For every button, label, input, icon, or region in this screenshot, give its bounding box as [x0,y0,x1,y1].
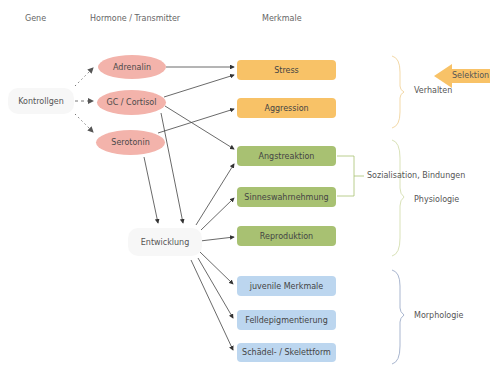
trait-reproduktion: Reproduktion [237,226,336,246]
node-cortisol: GC / Cortisol [97,90,166,115]
trait-stress: Stress [237,60,336,80]
node-adrenalin: Adrenalin [98,55,166,79]
node-entwicklung: Entwicklung [128,228,202,256]
selection-label: Selektion [452,71,489,80]
trait-angstreaktion-label: Angstreaktion [259,152,315,161]
trait-stress-label: Stress [274,66,299,75]
group-label-physiologie: Physiologie [414,195,459,204]
kontrollgen-label: Kontrollgen [18,97,63,106]
node-kontrollgen: Kontrollgen [8,88,74,114]
trait-schaedel-skelettform: Schädel- / Skelettform [237,343,336,362]
trait-aggression-label: Aggression [264,104,308,113]
trait-reproduktion-label: Reproduktion [260,232,313,241]
trait-felldepigmentierung: Felldepigmentierung [237,310,336,330]
group-label-morphologie: Morphologie [414,311,463,320]
trait-felldepig-label: Felldepigmentierung [245,316,327,325]
trait-juvenile-label: juvenile Merkmale [250,282,324,291]
trait-aggression: Aggression [237,98,336,118]
entwicklung-label: Entwicklung [141,238,190,247]
trait-sinneswahrnehmung: Sinneswahrnehmung [237,187,336,207]
adrenalin-label: Adrenalin [113,63,151,72]
group-label-sozialisation: Sozialisation, Bindungen [367,171,465,180]
trait-sinneswahrnehmung-label: Sinneswahrnehmung [244,193,328,202]
trait-schaedel-label: Schädel- / Skelettform [242,348,331,357]
trait-angstreaktion: Angstreaktion [237,146,336,166]
cortisol-label: GC / Cortisol [107,98,157,107]
trait-juvenile-merkmale: juvenile Merkmale [237,276,336,296]
node-serotonin: Serotonin [96,130,165,155]
serotonin-label: Serotonin [111,138,149,147]
group-label-verhalten: Verhalten [414,86,452,95]
